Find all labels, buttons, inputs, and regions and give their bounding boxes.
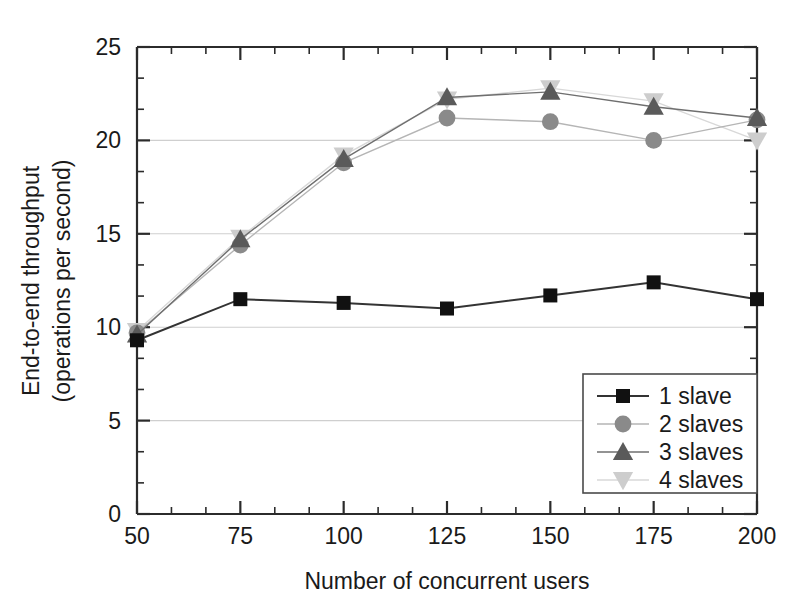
marker-square: [233, 292, 247, 306]
y-axis-title-line1: End-to-end throughput: [18, 165, 44, 396]
x-axis-tick-labels: 5075100125150175200: [124, 523, 776, 549]
y-axis-tick-labels: 0510152025: [95, 34, 121, 527]
throughput-line-chart: 0510152025 5075100125150175200 Number of…: [0, 0, 810, 616]
legend-item-label: 1 slave: [659, 383, 732, 409]
marker-square: [647, 275, 661, 289]
y-tick-label: 20: [95, 127, 121, 153]
marker-square: [543, 288, 557, 302]
y-axis-title-line2: (operations per second): [49, 160, 75, 403]
x-tick-label: 75: [228, 523, 254, 549]
x-tick-label: 50: [124, 523, 150, 549]
marker-square: [130, 333, 144, 347]
marker-square: [337, 296, 351, 310]
x-tick-label: 200: [738, 523, 776, 549]
marker-square: [440, 302, 454, 316]
x-tick-label: 150: [531, 523, 569, 549]
chart-page: 0510152025 5075100125150175200 Number of…: [0, 0, 810, 616]
legend-item-label: 2 slaves: [659, 411, 743, 437]
y-tick-label: 10: [95, 314, 121, 340]
marker-circle: [542, 113, 559, 130]
x-tick-label: 175: [634, 523, 672, 549]
legend[interactable]: 1 slave2 slaves3 slaves4 slaves: [583, 374, 757, 493]
y-tick-label: 25: [95, 34, 121, 60]
marker-circle: [615, 416, 632, 433]
marker-circle: [439, 110, 456, 127]
x-tick-label: 100: [324, 523, 362, 549]
legend-item-label: 4 slaves: [659, 467, 743, 493]
x-tick-label: 125: [428, 523, 466, 549]
y-tick-label: 0: [108, 501, 121, 527]
legend-item-label: 3 slaves: [659, 439, 743, 465]
y-tick-label: 5: [108, 408, 121, 434]
marker-circle: [645, 132, 662, 149]
marker-square: [616, 389, 630, 403]
y-tick-label: 15: [95, 221, 121, 247]
marker-square: [750, 292, 764, 306]
x-axis-title: Number of concurrent users: [304, 568, 589, 594]
